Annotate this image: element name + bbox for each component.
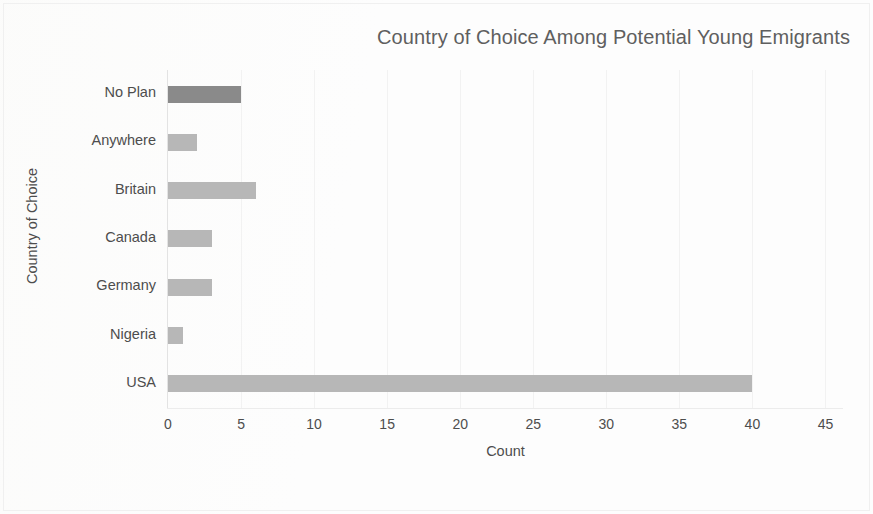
- x-axis-title: Count: [168, 443, 843, 459]
- bar-germany: [168, 279, 212, 296]
- x-tick-label-10: 10: [306, 416, 322, 432]
- x-tick-label-30: 30: [599, 416, 615, 432]
- x-axis-line: [167, 408, 843, 409]
- y-tick-label-usa: USA: [16, 374, 156, 390]
- x-tick-label-25: 25: [525, 416, 541, 432]
- bar-canada: [168, 230, 212, 247]
- bar-row: [168, 311, 843, 359]
- x-tick-label-40: 40: [745, 416, 761, 432]
- x-tick-label-15: 15: [379, 416, 395, 432]
- x-axis-tick-labels: 051015202530354045: [168, 416, 843, 440]
- bar-row: [168, 118, 843, 166]
- bar-row: [168, 70, 843, 118]
- y-axis-title: Country of Choice: [24, 146, 40, 306]
- bar-usa: [168, 375, 752, 392]
- chart-page: Country of Choice Among Potential Young …: [0, 0, 873, 514]
- x-tick-label-35: 35: [672, 416, 688, 432]
- plot-area: [168, 70, 843, 408]
- bar-nigeria: [168, 327, 183, 344]
- x-tick-label-0: 0: [164, 416, 172, 432]
- bar-no-plan: [168, 86, 241, 103]
- x-tick-label-5: 5: [237, 416, 245, 432]
- bar-anywhere: [168, 134, 197, 151]
- x-tick-label-20: 20: [452, 416, 468, 432]
- x-tick-label-45: 45: [818, 416, 834, 432]
- y-tick-label-nigeria: Nigeria: [16, 326, 156, 342]
- bar-britain: [168, 182, 256, 199]
- bar-row: [168, 167, 843, 215]
- chart-title: Country of Choice Among Potential Young …: [150, 26, 850, 49]
- bar-row: [168, 215, 843, 263]
- bar-row: [168, 263, 843, 311]
- bar-row: [168, 360, 843, 408]
- y-tick-label-no-plan: No Plan: [16, 84, 156, 100]
